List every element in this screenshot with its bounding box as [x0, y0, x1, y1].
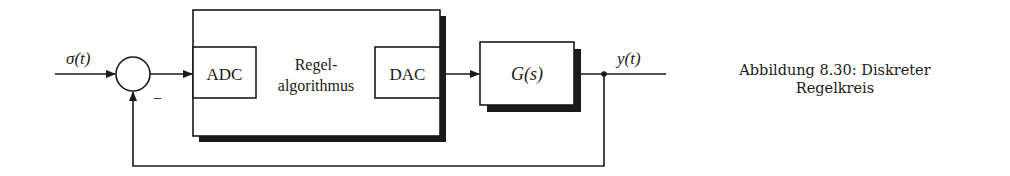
- caption-line-2: Regelkreis: [720, 79, 950, 97]
- minus-sign: −: [153, 90, 162, 107]
- dac-label: DAC: [390, 65, 426, 84]
- summing-junction: [116, 57, 150, 91]
- controller-label-line2: algorithmus: [278, 77, 354, 95]
- output-label: y(t): [615, 49, 641, 68]
- input-label: σ(t): [66, 49, 91, 68]
- caption-line-1: Abbildung 8.30: Diskreter: [720, 61, 950, 79]
- figure-caption: Abbildung 8.30: Diskreter Regelkreis: [720, 61, 950, 97]
- adc-label: ADC: [207, 65, 243, 84]
- plant-label: G(s): [511, 64, 543, 85]
- controller-label-line1: Regel-: [295, 56, 338, 74]
